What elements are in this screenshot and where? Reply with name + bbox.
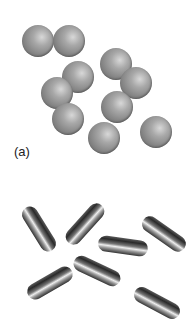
coccus-sphere [140,116,172,148]
panel-a-label: (a) [14,144,30,159]
coccus-sphere [22,25,54,57]
coccus-sphere [52,103,84,135]
bacillus-rod [19,204,59,255]
coccus-sphere [53,25,85,57]
bacillus-rod [71,253,123,289]
bacillus-rod [97,235,149,258]
coccus-sphere [101,91,133,123]
bacillus-rod [131,284,183,322]
bacillus-rod [24,264,75,303]
coccus-sphere [88,122,120,154]
